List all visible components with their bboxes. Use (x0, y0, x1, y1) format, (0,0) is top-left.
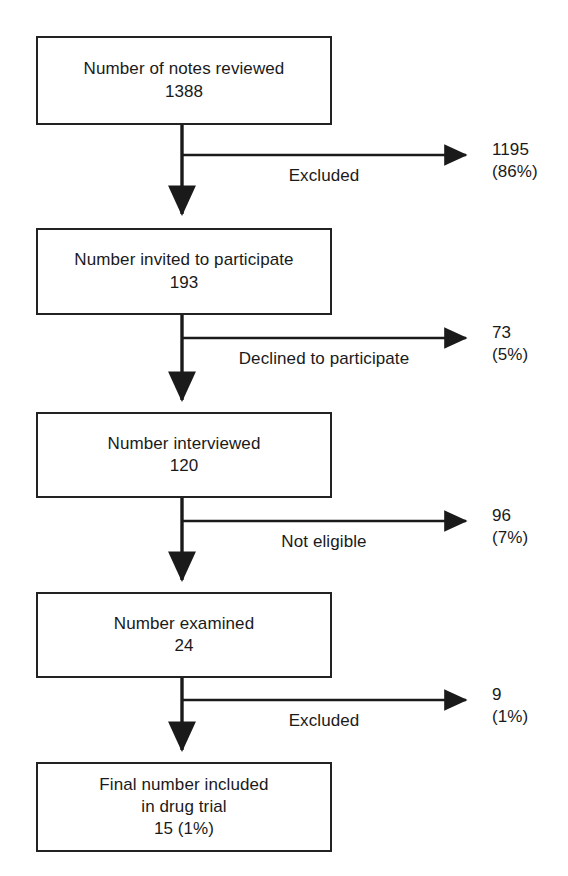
node-notes-reviewed-line-2: 1388 (165, 81, 203, 103)
branch-value-excluded-1-percent: (86%) (492, 161, 538, 183)
node-invited-to-participate: Number invited to participate 193 (36, 228, 332, 315)
node-final-line-3: 15 (1%) (154, 818, 214, 840)
branch-value-declined-percent: (5%) (492, 344, 528, 366)
branch-label-excluded-1: Excluded (182, 166, 466, 186)
node-interviewed-line-1: Number interviewed (108, 433, 261, 455)
node-invited-line-1: Number invited to participate (74, 249, 293, 271)
branch-label-not-eligible: Not eligible (182, 532, 466, 552)
node-invited-line-2: 193 (170, 272, 199, 294)
branch-value-excluded-2: 9 (1%) (492, 684, 528, 729)
branch-value-declined-count: 73 (492, 322, 528, 344)
node-final-included: Final number included in drug trial 15 (… (36, 762, 332, 852)
branch-value-not-eligible-count: 96 (492, 505, 528, 527)
branch-value-excluded-2-percent: (1%) (492, 706, 528, 728)
branch-label-declined: Declined to participate (182, 349, 466, 369)
branch-label-excluded-2: Excluded (182, 711, 466, 731)
node-examined: Number examined 24 (36, 592, 332, 678)
node-final-line-1: Final number included (99, 774, 268, 796)
branch-value-not-eligible: 96 (7%) (492, 505, 528, 550)
branch-value-excluded-2-count: 9 (492, 684, 528, 706)
node-interviewed-line-2: 120 (170, 455, 199, 477)
flowchart: Number of notes reviewed 1388 Number inv… (0, 0, 568, 876)
branch-value-declined: 73 (5%) (492, 322, 528, 367)
node-examined-line-1: Number examined (114, 613, 254, 635)
node-notes-reviewed: Number of notes reviewed 1388 (36, 36, 332, 125)
branch-value-excluded-1: 1195 (86%) (492, 139, 538, 184)
node-notes-reviewed-line-1: Number of notes reviewed (84, 58, 285, 80)
branch-value-not-eligible-percent: (7%) (492, 527, 528, 549)
node-interviewed: Number interviewed 120 (36, 412, 332, 498)
node-final-line-2: in drug trial (141, 796, 226, 818)
node-examined-line-2: 24 (174, 635, 193, 657)
branch-value-excluded-1-count: 1195 (492, 139, 538, 161)
